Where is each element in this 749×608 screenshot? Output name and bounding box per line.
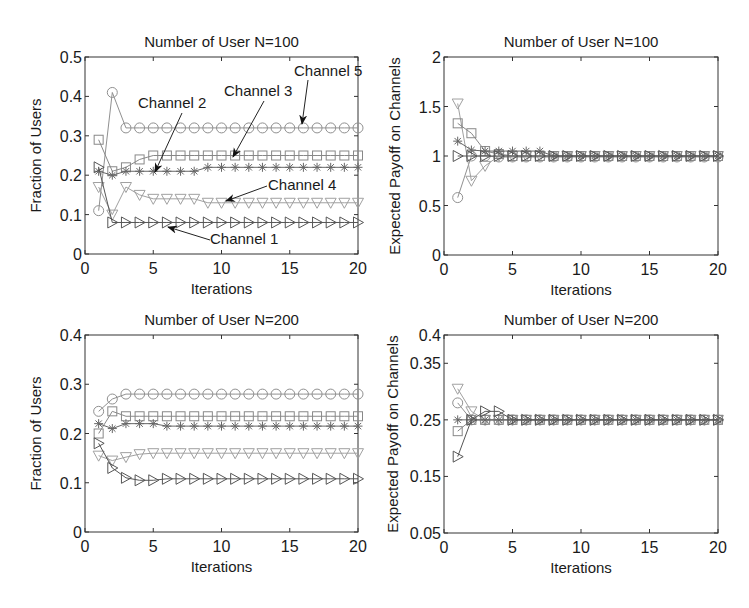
y-tick-label: 0.1	[60, 475, 82, 492]
asterisk-marker-icon	[162, 422, 171, 431]
asterisk-marker-icon	[326, 422, 335, 431]
annotation-label: Channel 3	[224, 82, 292, 99]
y-tick-label: 0.4	[60, 88, 82, 105]
asterisk-marker-icon	[494, 415, 503, 424]
y-tick-label: 0.15	[410, 468, 441, 485]
y-tick-label: 0.25	[410, 412, 441, 429]
asterisk-marker-icon	[481, 415, 490, 424]
chart-title: Number of User N=200	[144, 311, 299, 328]
x-axis-label: Iterations	[550, 281, 612, 298]
asterisk-marker-icon	[149, 419, 158, 428]
asterisk-marker-icon	[176, 422, 185, 431]
y-axis-label: Fraction of Users	[27, 376, 44, 490]
x-tick-label: 10	[572, 539, 590, 556]
chart-title: Number of User N=100	[144, 33, 299, 50]
y-tick-label: 0	[73, 246, 82, 263]
y-tick-label: 2	[432, 49, 441, 66]
asterisk-marker-icon	[108, 171, 117, 180]
x-tick-label: 5	[508, 539, 517, 556]
x-tick-label: 20	[709, 261, 727, 278]
x-tick-label: 15	[641, 261, 659, 278]
asterisk-marker-icon	[299, 163, 308, 172]
y-tick-label: 0.5	[419, 198, 441, 215]
asterisk-marker-icon	[453, 137, 462, 146]
asterisk-marker-icon	[135, 419, 144, 428]
y-tick-label: 0.35	[410, 355, 441, 372]
asterisk-marker-icon	[313, 422, 322, 431]
asterisk-marker-icon	[121, 167, 130, 176]
asterisk-marker-icon	[135, 167, 144, 176]
x-tick-label: 10	[572, 261, 590, 278]
asterisk-marker-icon	[285, 422, 294, 431]
asterisk-marker-icon	[272, 163, 281, 172]
chart-title: Number of User N=200	[504, 311, 659, 328]
x-tick-label: 20	[709, 539, 727, 556]
asterisk-marker-icon	[340, 163, 349, 172]
asterisk-marker-icon	[162, 167, 171, 176]
asterisk-marker-icon	[217, 163, 226, 172]
figure: 0510152000.10.20.30.40.5Number of User N…	[0, 0, 749, 608]
y-tick-label: 0.05	[410, 525, 441, 542]
y-tick-label: 0.5	[60, 49, 82, 66]
y-tick-label: 0.3	[60, 128, 82, 145]
y-tick-label: 0	[73, 524, 82, 541]
x-tick-label: 5	[149, 260, 158, 277]
asterisk-marker-icon	[354, 163, 363, 172]
asterisk-marker-icon	[108, 424, 117, 433]
y-axis-label: Fraction of Users	[27, 98, 44, 212]
y-tick-label: 0.3	[60, 376, 82, 393]
asterisk-marker-icon	[258, 163, 267, 172]
asterisk-marker-icon	[190, 167, 199, 176]
annotation-label: Channel 2	[138, 94, 206, 111]
asterisk-marker-icon	[94, 419, 103, 428]
annotation-label: Channel 4	[268, 176, 336, 193]
x-tick-label: 5	[149, 538, 158, 555]
asterisk-marker-icon	[203, 422, 212, 431]
y-tick-label: 0.1	[60, 207, 82, 224]
asterisk-marker-icon	[121, 419, 130, 428]
asterisk-marker-icon	[313, 163, 322, 172]
figure-background	[0, 0, 749, 608]
asterisk-marker-icon	[326, 163, 335, 172]
asterisk-marker-icon	[231, 163, 240, 172]
chart-title: Number of User N=100	[504, 33, 659, 50]
x-axis-label: Iterations	[550, 559, 612, 576]
x-tick-label: 15	[281, 260, 299, 277]
x-tick-label: 20	[349, 260, 367, 277]
x-tick-label: 15	[641, 539, 659, 556]
asterisk-marker-icon	[244, 163, 253, 172]
asterisk-marker-icon	[285, 163, 294, 172]
y-axis-label: Expected Payoff on Channels	[384, 335, 401, 532]
asterisk-marker-icon	[340, 422, 349, 431]
asterisk-marker-icon	[203, 163, 212, 172]
y-axis-label: Expected Payoff on Channels	[386, 57, 403, 254]
asterisk-marker-icon	[231, 422, 240, 431]
y-tick-label: 1	[432, 148, 441, 165]
asterisk-marker-icon	[453, 415, 462, 424]
x-tick-label: 20	[349, 538, 367, 555]
asterisk-marker-icon	[176, 167, 185, 176]
asterisk-marker-icon	[217, 422, 226, 431]
asterisk-marker-icon	[190, 422, 199, 431]
asterisk-marker-icon	[272, 422, 281, 431]
asterisk-marker-icon	[258, 422, 267, 431]
asterisk-marker-icon	[244, 422, 253, 431]
x-axis-label: Iterations	[191, 558, 253, 575]
annotation-label: Channel 5	[294, 62, 362, 79]
y-tick-label: 0.4	[60, 327, 82, 344]
x-tick-label: 5	[508, 261, 517, 278]
y-tick-label: 0.4	[419, 327, 441, 344]
y-tick-label: 0.2	[60, 167, 82, 184]
x-tick-label: 15	[281, 538, 299, 555]
y-tick-label: 0	[432, 247, 441, 264]
annotation-label: Channel 1	[210, 230, 278, 247]
asterisk-marker-icon	[299, 422, 308, 431]
x-axis-label: Iterations	[191, 280, 253, 297]
x-tick-label: 10	[213, 538, 231, 555]
y-tick-label: 0.2	[60, 426, 82, 443]
x-tick-label: 10	[213, 260, 231, 277]
asterisk-marker-icon	[354, 422, 363, 431]
y-tick-label: 1.5	[419, 99, 441, 116]
